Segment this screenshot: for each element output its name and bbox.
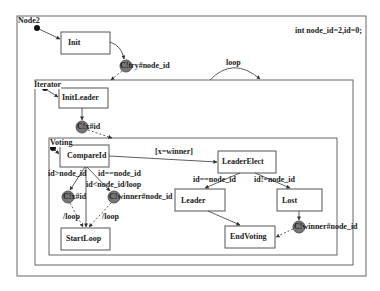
transition-label-id-eq-node-2: id==node_id <box>193 176 236 184</box>
edge-winner2-endvoting <box>276 229 293 237</box>
edge-x-voting <box>88 130 112 138</box>
state-label-end-voting: EndVoting <box>230 233 267 241</box>
transition-label-id-eq-node: id==node_id <box>98 170 141 178</box>
state-label-init-leader: InitLeader <box>62 94 99 102</box>
edge-init-try <box>110 42 124 59</box>
edge-compareid-leaderelect <box>109 156 217 162</box>
variable-declaration: int node_id=2,id=0; <box>295 27 362 35</box>
node2-initial-dot <box>34 25 40 31</box>
edge-leader-endvoting <box>208 211 240 225</box>
container-label-node2: Node2 <box>18 17 40 25</box>
transition-label-loop: loop <box>226 59 241 67</box>
edge-loop <box>210 68 260 80</box>
state-label-compare-id: CompareId <box>67 152 106 160</box>
transition-label-id-ne-node: id!=node_id <box>254 176 295 184</box>
container-label-iterator: Iterator <box>34 81 61 89</box>
channel-label-x-2: C!x#id <box>63 193 86 201</box>
transition-label-id-gt-node: id>node_id <box>48 170 86 178</box>
state-label-init: Init <box>68 39 80 47</box>
transition-label-slash-loop-2: /loop <box>102 213 119 221</box>
channel-label-x-1: C!x#id <box>77 123 100 131</box>
edge-try-iterator <box>111 71 122 80</box>
edge-iterator-initleader <box>47 90 58 97</box>
channel-label-winner-1: C!winner#node_id <box>109 193 173 201</box>
container-label-voting: Voting <box>50 139 72 147</box>
channel-label-try: C!try#node_id <box>120 62 170 70</box>
state-label-lost: Lost <box>282 197 297 205</box>
transition-label-id-lt-node-loop: id<node_id/loop <box>86 181 141 189</box>
state-label-leader-elect: LeaderElect <box>222 158 264 166</box>
state-label-leader: Leader <box>181 197 205 205</box>
state-label-start-loop: StartLoop <box>66 235 101 243</box>
transition-label-slash-loop-1: /loop <box>63 213 80 221</box>
edge-voting-compareid <box>55 150 59 154</box>
transition-label-x-winner: [x=winner] <box>155 148 193 156</box>
channel-label-winner-2: C!winner#node_id <box>294 223 358 231</box>
edge-node2-init <box>39 29 60 39</box>
